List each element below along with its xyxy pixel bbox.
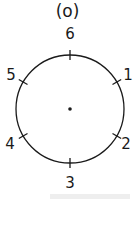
- label-5: 5: [4, 67, 18, 83]
- label-4: 4: [3, 136, 17, 152]
- label-3: 3: [63, 175, 77, 191]
- center-point: [68, 107, 72, 111]
- label-2: 2: [119, 136, 133, 152]
- label-6: 6: [63, 26, 77, 42]
- label-1: 1: [121, 67, 135, 83]
- watermark: [50, 194, 130, 199]
- tick-1: [113, 80, 122, 85]
- tick-5: [19, 80, 28, 85]
- tick-4: [19, 134, 28, 139]
